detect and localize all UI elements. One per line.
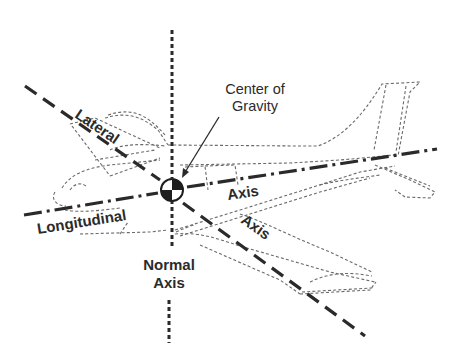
normal-label-line1: Normal	[143, 256, 195, 273]
cg-label-line2: Gravity	[232, 98, 279, 114]
lateral-label: Lateral	[72, 105, 122, 147]
longitudinal-axis-label: Axis	[226, 182, 260, 203]
lateral-axis-line-lower	[183, 203, 365, 336]
normal-label-line2: Axis	[153, 274, 185, 291]
cg-pointer-arrow	[182, 117, 219, 178]
cg-label-line1: Center of	[225, 81, 286, 97]
longitudinal-axis-line-right	[187, 149, 437, 187]
center-of-gravity-symbol	[161, 179, 183, 201]
airplane-axes-diagram: Center of Gravity Lateral Axis Longitudi…	[0, 0, 452, 363]
lateral-axis-label: Axis	[238, 211, 274, 243]
